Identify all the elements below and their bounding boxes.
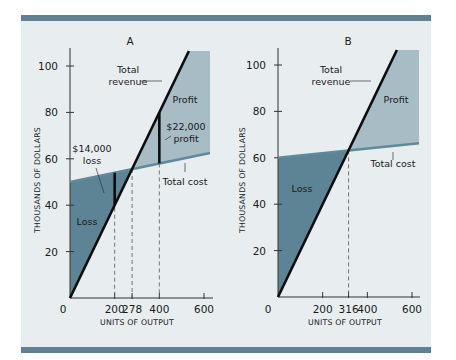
panel-b-x-tick-label: 200: [313, 303, 333, 315]
panel-a-gap-label-amount: $22,000: [166, 121, 205, 132]
panel-a-cost-label: Total cost: [162, 176, 208, 187]
panel-a-title: A: [126, 35, 134, 47]
panel-a-y-tick-label: 20: [45, 246, 58, 258]
panel-b-x-tick-label: 400: [357, 303, 377, 315]
panel-a-profit-region: [132, 51, 210, 169]
panel-b-x-axis-title: UNITS OF OUTPUT: [308, 318, 382, 327]
panel-a-x-tick-label: 0: [60, 303, 67, 315]
panel-a-revenue-label-line1: Total: [116, 64, 139, 75]
panel-a-gap-label-type: loss: [83, 155, 101, 166]
panel-b-revenue-label-line1: Total: [319, 64, 342, 75]
panel-a-x-tick-label: 400: [149, 303, 169, 315]
panel-a-x-axis-title: UNITS OF OUTPUT: [100, 318, 174, 327]
panel-a-x-tick-label: 600: [194, 303, 214, 315]
panel-b-y-tick-label: 80: [253, 105, 266, 117]
panel-b-y-tick-label: 60: [253, 152, 266, 164]
panel-b-profit-label: Profit: [384, 94, 409, 105]
panel-b-y-tick-label: 20: [253, 245, 266, 257]
panel-a-total-revenue-line: [70, 51, 189, 298]
panel-a-revenue-label-line2: revenue: [109, 76, 148, 87]
panel-b-loss-label: Loss: [292, 183, 313, 194]
panel-a-y-tick-label: 100: [38, 60, 58, 72]
panel-a-x-tick-label: 278: [122, 303, 142, 315]
panel-a-y-axis-title: THOUSANDS OF DOLLARS: [33, 127, 42, 234]
panel-b-y-tick-label: 40: [253, 198, 266, 210]
panel-b-y-tick-label: 100: [246, 59, 266, 71]
panel-b-x-tick-label: 600: [402, 303, 422, 315]
panel-a-gap-label-amount: $14,000: [72, 143, 111, 154]
panel-a-profit-label: Profit: [173, 94, 198, 105]
panel-b-cost-label: Total cost: [370, 158, 416, 169]
panel-b-title: B: [344, 35, 351, 47]
panel-b-y-axis-title: THOUSANDS OF DOLLARS: [238, 127, 247, 234]
panel-a-gap-label-type: profit: [173, 133, 199, 144]
panel-b-x-tick-label: 0: [265, 303, 272, 315]
panel-b-revenue-label-line2: revenue: [312, 76, 351, 87]
panel-a-y-tick-label: 40: [45, 199, 58, 211]
panel-b-x-tick-label: 316: [339, 303, 359, 315]
chart-svg: 204060801000200278400600$14,000loss$22,0…: [0, 0, 456, 360]
panel-a-y-tick-label: 60: [45, 153, 58, 165]
panel-a-y-tick-label: 80: [45, 106, 58, 118]
panel-a-loss-label: Loss: [77, 216, 98, 227]
